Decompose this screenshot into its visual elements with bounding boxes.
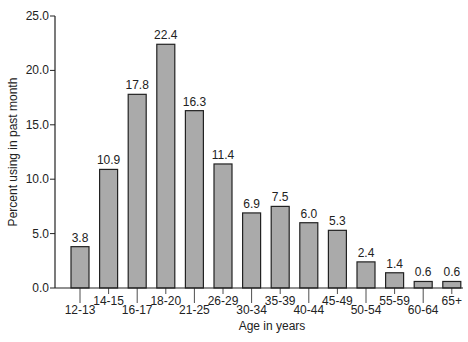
y-tick-label: 0.0	[32, 281, 49, 295]
x-tick-label: 18-20	[150, 294, 181, 308]
x-tick-label: 65+	[442, 294, 462, 308]
y-tick-label: 10.0	[26, 172, 50, 186]
bar	[386, 273, 404, 288]
bar-value-label: 0.6	[415, 265, 432, 279]
x-tick-label: 14-15	[93, 294, 124, 308]
x-tick-label: 40-44	[293, 303, 324, 317]
bar-value-label: 0.6	[443, 265, 460, 279]
y-axis-label: Percent using in past month	[6, 78, 20, 227]
bar-value-label: 3.8	[72, 231, 89, 245]
bar	[271, 206, 289, 288]
bar	[443, 281, 461, 288]
bar-value-label: 16.3	[183, 95, 207, 109]
bar-value-label: 2.4	[358, 246, 375, 260]
x-tick-label: 35-39	[265, 294, 296, 308]
bar-value-label: 7.5	[272, 190, 289, 204]
y-tick-label: 15.0	[26, 118, 50, 132]
bar-value-label: 6.9	[243, 197, 260, 211]
bar-chart: 0.05.010.015.020.025.0 3.810.917.822.416…	[0, 0, 468, 342]
bar	[157, 44, 175, 288]
x-tick-label: 45-49	[322, 294, 353, 308]
bar	[357, 262, 375, 288]
bar-value-label: 10.9	[97, 153, 121, 167]
y-axis: 0.05.010.015.020.025.0	[26, 9, 55, 295]
bar	[100, 169, 118, 288]
bar-value-label: 11.4	[212, 148, 235, 162]
x-tick-label: 26-29	[208, 294, 239, 308]
x-tick-label: 50-54	[351, 303, 382, 317]
bar	[71, 247, 89, 288]
x-axis-label: Age in years	[239, 319, 306, 333]
bar	[243, 213, 261, 288]
y-tick-label: 5.0	[32, 227, 49, 241]
x-tick-label: 21-25	[179, 303, 210, 317]
bar	[300, 223, 318, 288]
bar	[328, 230, 346, 288]
bar	[214, 164, 232, 288]
bar-value-label: 22.4	[154, 28, 178, 42]
bar-value-label: 1.4	[386, 257, 403, 271]
bar	[414, 281, 432, 288]
bar	[128, 94, 146, 288]
bar-value-label: 5.3	[329, 214, 346, 228]
x-tick-label: 16-17	[122, 303, 153, 317]
bar	[185, 111, 203, 288]
x-tick-label: 30-34	[236, 303, 267, 317]
x-tick-label: 60-64	[408, 303, 439, 317]
y-tick-label: 25.0	[26, 9, 50, 23]
bars: 3.810.917.822.416.311.46.97.56.05.32.41.…	[71, 28, 461, 288]
y-tick-label: 20.0	[26, 63, 50, 77]
x-tick-label: 12-13	[65, 303, 96, 317]
bar-value-label: 6.0	[300, 207, 317, 221]
bar-value-label: 17.8	[126, 78, 150, 92]
x-tick-label: 55-59	[379, 294, 410, 308]
x-axis: 12-1314-1516-1718-2021-2526-2930-3435-39…	[55, 288, 463, 317]
